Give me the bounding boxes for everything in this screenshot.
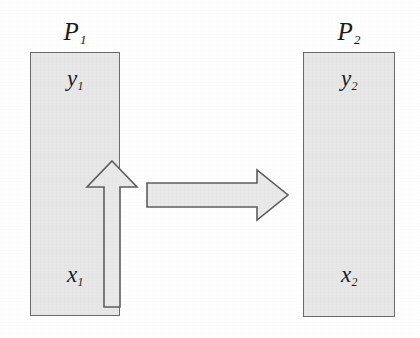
panel-caption-p1: P1 (30, 18, 120, 46)
axis-label-y1: y1 (42, 66, 108, 92)
panel-caption-p1-base: P (64, 18, 80, 45)
axis-label-x1-subscript: 1 (77, 275, 83, 289)
axis-label-y2-subscript: 2 (351, 79, 357, 93)
panel-caption-p1-subscript: 1 (80, 32, 87, 47)
diagram-canvas: P1 y1 x1 P2 y2 x2 (0, 0, 420, 338)
axis-label-y2-base: y (341, 66, 351, 91)
axis-label-x1: x1 (42, 262, 108, 288)
panel-caption-p2: P2 (303, 18, 395, 46)
axis-label-y2: y2 (316, 66, 382, 92)
axis-label-x2-subscript: 2 (351, 275, 357, 289)
axis-label-y1-base: y (67, 66, 77, 91)
panel-caption-p2-base: P (338, 18, 354, 45)
axis-label-x1-base: x (67, 262, 77, 287)
transformation-arrow-icon (145, 168, 290, 222)
axis-label-x2: x2 (316, 262, 382, 288)
axis-label-x2-base: x (341, 262, 351, 287)
axis-label-y1-subscript: 1 (77, 79, 83, 93)
panel-caption-p2-subscript: 2 (354, 32, 361, 47)
